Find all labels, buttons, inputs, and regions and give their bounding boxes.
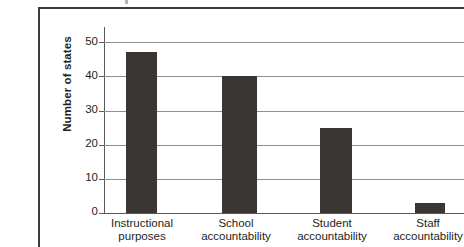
- gridline-10: [104, 179, 464, 180]
- x-tick-label-line1: Instructional: [111, 217, 173, 229]
- y-tick-label-50: 50: [58, 36, 98, 48]
- gridline-30: [104, 111, 464, 112]
- x-tick-label-line1: Staff: [416, 217, 439, 229]
- plot-area: [104, 42, 464, 213]
- gridline-50: [104, 42, 464, 43]
- x-tick-label-line1: Student: [312, 217, 352, 229]
- y-tick-label-30: 30: [58, 104, 98, 116]
- y-axis-tick-labels: 0 10 20 30 40 50: [54, 0, 98, 247]
- gridline-20: [104, 145, 464, 146]
- x-axis-spine: [104, 213, 464, 214]
- bar-school-accountability: [222, 76, 257, 213]
- y-tick-label-0: 0: [58, 206, 98, 218]
- bar-staff-accountability: [415, 203, 445, 213]
- bar-student-accountability: [320, 128, 352, 214]
- gridline-40: [104, 76, 464, 77]
- y-tick-label-10: 10: [58, 172, 98, 184]
- cropped-caption-mark: [125, 0, 128, 4]
- y-tick-label-40: 40: [58, 70, 98, 82]
- x-tick-label-staff-accountability: Staff accountability: [368, 217, 464, 243]
- y-tick-label-20: 20: [58, 138, 98, 150]
- figure-container: Number of states 0 10 20 30 40 50 Instru…: [0, 0, 464, 247]
- bar-instructional-purposes: [126, 52, 157, 213]
- figure-frame-top-border: [38, 7, 464, 9]
- x-tick-label-line1: School: [218, 217, 253, 229]
- x-tick-label-line2: accountability: [368, 230, 464, 243]
- figure-frame-left-border: [38, 7, 40, 247]
